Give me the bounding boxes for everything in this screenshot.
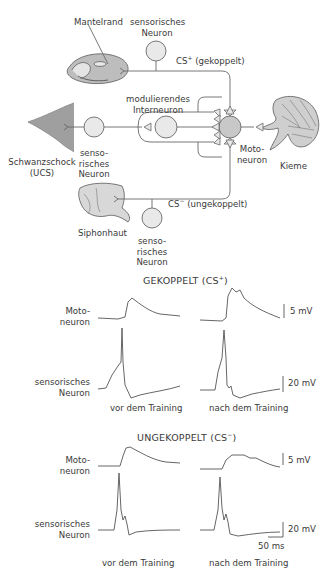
unpaired-moto-label-l2: neuron: [30, 466, 90, 477]
cs-plus-base: CS: [176, 56, 187, 66]
label-sensory-mid-l3: Neuron: [76, 169, 112, 180]
label-sensory-top-l1: sensorisches: [130, 17, 184, 28]
unpaired-scale-bot: 20 mV: [288, 524, 316, 535]
label-mantelrand: Mantelrand: [74, 17, 123, 28]
unpaired-sens-before-trace: [98, 473, 180, 535]
siphon-organ-icon: [79, 183, 130, 222]
paired-moto-label-l2: neuron: [30, 317, 90, 328]
label-cs-plus: CS+ (gekoppelt): [176, 56, 245, 67]
unpaired-moto-after-trace: [200, 455, 280, 469]
label-sensory-bot: senso- risches Neuron: [134, 236, 170, 268]
sensory-neuron-mid: [84, 117, 104, 137]
paired-moto-label-l1: Moto-: [30, 306, 90, 317]
paired-title-end: ): [224, 275, 228, 286]
label-cs-minus: CS− (ungekoppelt): [168, 199, 247, 210]
label-sensory-bot-l1: senso-: [134, 236, 170, 247]
unpaired-title: UNGEKOPPELT (CS−): [137, 433, 236, 444]
unpaired-title-end: ): [232, 432, 236, 443]
tail-organ-icon: [28, 103, 74, 152]
paired-col-after: nach dem Training: [209, 403, 288, 414]
paired-sens-label-l1: sensorisches: [20, 377, 90, 388]
unpaired-scale-time: 50 ms: [258, 541, 285, 552]
cs-minus-text: (ungekoppelt): [185, 199, 248, 209]
unpaired-scale-top: 5 mV: [288, 455, 310, 466]
label-motoneuron-l2: neuron: [234, 155, 270, 166]
label-interneuron-l2: Interneuron: [122, 105, 194, 116]
paired-title-base: GEKOPPELT (CS: [143, 275, 219, 286]
cs-minus-axon: [118, 142, 230, 199]
paired-sens-label: sensorisches Neuron: [20, 377, 90, 398]
motoneuron: [219, 116, 241, 138]
paired-sens-after-trace: [200, 330, 280, 398]
unpaired-sens-label: sensorisches Neuron: [20, 519, 90, 540]
unpaired-col-after: nach dem Training: [209, 558, 288, 569]
unpaired-moto-label: Moto- neuron: [30, 455, 90, 476]
paired-moto-after-trace: [200, 288, 280, 321]
gill-organ-icon: [262, 96, 319, 150]
paired-sens-label-l2: Neuron: [20, 388, 90, 399]
label-sensory-bot-l2: risches: [134, 247, 170, 258]
paired-moto-label: Moto- neuron: [30, 306, 90, 327]
paired-scale-top: 5 mV: [290, 306, 312, 317]
sensory-neuron-bot: [142, 208, 162, 228]
interneuron: [155, 116, 177, 138]
label-siphonhaut: Siphonhaut: [78, 228, 127, 239]
paired-col-before: vor dem Training: [110, 403, 182, 414]
label-sensory-mid: senso- risches Neuron: [76, 148, 112, 180]
label-interneuron-l1: modulierendes: [122, 94, 194, 105]
label-sensory-mid-l2: risches: [76, 159, 112, 170]
label-interneuron: modulierendes Interneuron: [122, 94, 194, 115]
unpaired-moto-label-l1: Moto-: [30, 455, 90, 466]
label-sensory-bot-l3: Neuron: [134, 257, 170, 268]
diagram-canvas: [0, 0, 330, 588]
cs-minus-base: CS: [168, 199, 179, 209]
label-sensory-top-l2: Neuron: [130, 28, 184, 39]
label-schwanzschock: Schwanzschock (UCS): [6, 157, 78, 178]
paired-title: GEKOPPELT (CS+): [143, 276, 228, 287]
cs-plus-text: (gekoppelt): [193, 56, 245, 66]
unpaired-sens-label-l1: sensorisches: [20, 519, 90, 530]
unpaired-col-before: vor dem Training: [102, 558, 174, 569]
label-motoneuron-l1: Moto-: [234, 144, 270, 155]
paired-moto-before-trace: [98, 298, 180, 319]
label-kieme: Kieme: [280, 161, 307, 172]
sensory-neuron-top: [146, 41, 166, 61]
label-motoneuron: Moto- neuron: [234, 144, 270, 165]
mantle-organ-icon: [67, 24, 128, 84]
unpaired-sens-after-trace: [200, 477, 280, 536]
unpaired-title-base: UNGEKOPPELT (CS: [137, 432, 227, 443]
label-sensory-top: sensorisches Neuron: [130, 17, 184, 38]
paired-sens-before-trace: [98, 328, 180, 398]
label-schwanzschock-l2: (UCS): [6, 168, 78, 179]
label-sensory-mid-l1: senso-: [76, 148, 112, 159]
scale-bars: [268, 304, 284, 537]
unpaired-moto-before-trace: [98, 447, 180, 466]
paired-scale-bot: 20 mV: [288, 378, 316, 389]
unpaired-sens-label-l2: Neuron: [20, 530, 90, 541]
label-schwanzschock-l1: Schwanzschock: [6, 157, 78, 168]
